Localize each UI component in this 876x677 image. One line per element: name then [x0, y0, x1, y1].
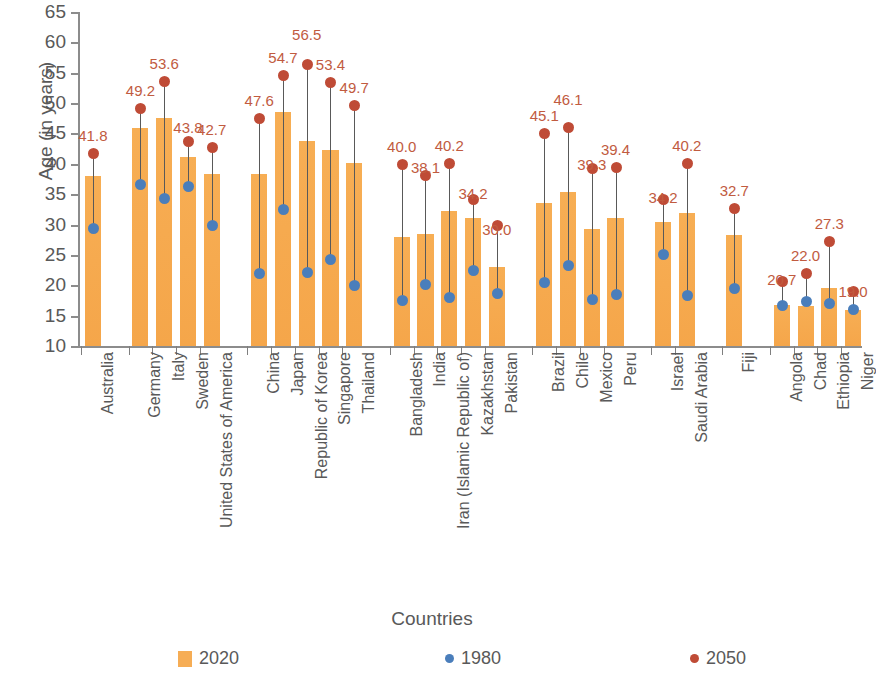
y-axis-tick [71, 346, 79, 348]
x-axis-label: Ethiopia [836, 352, 852, 410]
y-tick-label: 25 [20, 245, 66, 264]
dot-2050 [444, 158, 455, 169]
connector-line [188, 141, 189, 186]
y-axis-tick [71, 285, 79, 287]
dot-1980 [777, 300, 788, 311]
legend-item-2020[interactable]: 2020 [178, 648, 239, 669]
connector-line [140, 108, 141, 184]
dot-1980 [302, 267, 313, 278]
dot-2050 [207, 142, 218, 153]
legend-item-2050[interactable]: 2050 [690, 648, 746, 669]
data-label-2050: 30.0 [482, 221, 511, 238]
y-tick-label: 10 [20, 336, 66, 355]
data-label-2050: 40.0 [387, 138, 416, 155]
data-label-2050: 22.0 [791, 247, 820, 264]
legend-label: 1980 [461, 648, 501, 669]
data-label-2050: 53.4 [316, 56, 345, 73]
connector-line [259, 118, 260, 273]
connector-line [307, 64, 308, 272]
dot-1980 [492, 288, 503, 299]
y-tick-label: 20 [20, 275, 66, 294]
x-axis-label: India [432, 352, 448, 387]
y-axis-tick [71, 103, 79, 105]
data-label-2050: 38.1 [411, 159, 440, 176]
connector-line [449, 163, 450, 298]
dot-1980 [183, 181, 194, 192]
y-axis-tick [71, 225, 79, 227]
data-label-2050: 54.7 [268, 49, 297, 66]
data-label-2050: 32.7 [720, 182, 749, 199]
x-axis-label: Italy [171, 352, 187, 381]
x-axis-label: Thailand [361, 352, 377, 413]
legend-label: 2020 [199, 648, 239, 669]
dot-1980 [587, 294, 598, 305]
dot-1980 [207, 220, 218, 231]
data-label-2050: 40.2 [672, 137, 701, 154]
y-axis-tick [71, 42, 79, 44]
y-tick-label: 55 [20, 63, 66, 82]
y-axis-tick [71, 12, 79, 14]
dot-1980 [658, 249, 669, 260]
x-axis-label: Chad [813, 352, 829, 390]
dot-2050 [183, 136, 194, 147]
chart-legend: 202019802050 [0, 648, 864, 674]
connector-line [568, 127, 569, 265]
data-label-2050: 39.4 [601, 141, 630, 158]
x-axis-label: Republic of Korea [314, 352, 330, 479]
legend-dot-2050-icon [690, 654, 699, 663]
connector-line [592, 168, 593, 299]
dot-1980 [325, 254, 336, 265]
y-tick-label: 50 [20, 93, 66, 112]
dot-2050 [801, 268, 812, 279]
dot-2050 [254, 113, 265, 124]
connector-line [164, 81, 165, 198]
x-axis-label: Israel [670, 352, 686, 391]
y-axis-tick [71, 73, 79, 75]
dot-2050 [88, 148, 99, 159]
dot-1980 [611, 289, 622, 300]
y-axis-tick [71, 316, 79, 318]
dot-2050 [729, 203, 740, 214]
dot-2050 [682, 158, 693, 169]
y-axis-tick-labels: 101520253035404550556065 [20, 0, 66, 380]
connector-line [687, 163, 688, 295]
dot-2050 [159, 76, 170, 87]
x-axis-category-labels: AustraliaGermanyItalySwedenUnited States… [78, 350, 862, 590]
data-label-2050: 45.1 [530, 107, 559, 124]
dot-1980 [468, 265, 479, 276]
connector-line [473, 199, 474, 270]
legend-item-1980[interactable]: 1980 [445, 648, 501, 669]
data-label-2050: 49.7 [340, 79, 369, 96]
connector-line [544, 133, 545, 282]
x-axis-label: Angola [789, 352, 805, 402]
x-axis-label: Saudi Arabia [694, 352, 710, 443]
x-axis-label: China [266, 352, 282, 394]
dot-1980 [801, 296, 812, 307]
dot-2050 [302, 59, 313, 70]
dot-2050 [824, 236, 835, 247]
dot-1980 [88, 223, 99, 234]
y-tick-label: 45 [20, 123, 66, 142]
dot-2050 [539, 128, 550, 139]
x-axis-label: Australia [100, 352, 116, 414]
dot-1980 [848, 304, 859, 315]
y-axis-tick [71, 164, 79, 166]
data-label-2050: 47.6 [245, 92, 274, 109]
data-label-2050: 56.5 [292, 26, 321, 43]
x-axis-title: Countries [0, 608, 864, 630]
connector-line [93, 153, 94, 228]
dot-1980 [682, 290, 693, 301]
connector-line [425, 175, 426, 284]
x-axis-label: Kazakhstan [480, 352, 496, 436]
connector-line [829, 241, 830, 304]
data-label-2050: 53.6 [150, 55, 179, 72]
x-axis-label: Singapore [337, 352, 353, 425]
data-label-2050: 40.2 [435, 137, 464, 154]
dot-1980 [278, 204, 289, 215]
data-label-2050: 39.3 [577, 156, 606, 173]
x-axis-label: Brazil [551, 352, 567, 392]
x-axis-label: Germany [147, 352, 163, 418]
x-axis-label: Peru [623, 352, 639, 386]
connector-line [616, 167, 617, 294]
